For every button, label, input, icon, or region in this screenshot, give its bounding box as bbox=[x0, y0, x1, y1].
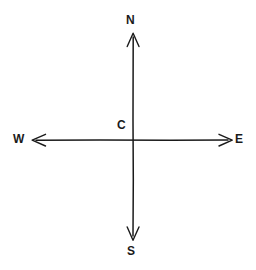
center-label: C bbox=[117, 119, 126, 131]
east-label: E bbox=[235, 133, 243, 145]
west-label: W bbox=[13, 133, 24, 145]
south-label: S bbox=[127, 245, 135, 257]
compass-diagram-canvas: N S W E C bbox=[0, 0, 256, 270]
axes-drawing bbox=[0, 0, 256, 270]
north-label: N bbox=[126, 14, 135, 26]
